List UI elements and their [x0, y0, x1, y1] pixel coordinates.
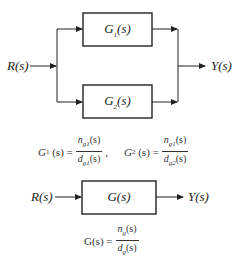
- formula-g2-sub: 2: [132, 146, 136, 158]
- block-g1-label: G1(s): [83, 22, 152, 42]
- block-g1-symbol: G: [104, 21, 113, 36]
- formula-g1-denominator: dg1(s): [76, 152, 103, 169]
- input-label: R(s): [7, 59, 29, 73]
- formula-g2-numerator: ng1(s): [162, 134, 189, 152]
- formula-g-lhs: G(s) =: [84, 235, 113, 247]
- formula-g2-arg: (s) =: [138, 146, 159, 158]
- formula-g2: G2 (s) = ng1(s) dg2(s): [124, 134, 191, 169]
- formula-g1-sub: 1: [46, 146, 50, 158]
- output-label: Y(s): [211, 59, 232, 73]
- formula-g1: G1 (s) = ng1(s) dg1(s) ,: [38, 134, 108, 169]
- block-g2-symbol: G: [104, 93, 113, 108]
- formula-g2-denominator: dg2(s): [162, 152, 189, 169]
- block-g2-label: G2(s): [83, 94, 152, 114]
- block-g1-arg: (s): [117, 21, 131, 36]
- eq-input-label: R(s): [31, 190, 53, 204]
- formula-separator: ,: [105, 146, 108, 158]
- formula-g1-symbol: G: [38, 146, 46, 158]
- formula-g1-arg: (s) =: [52, 146, 73, 158]
- formula-g-fraction: ng(s) dg(s): [116, 223, 139, 258]
- formula-g-denominator: dg(s): [116, 241, 139, 258]
- formula-g-numerator: ng(s): [116, 223, 139, 241]
- formula-g: G(s) = ng(s) dg(s): [84, 223, 142, 258]
- formula-g1-fraction: ng1(s) dg1(s): [76, 134, 103, 169]
- formula-g1-numerator: ng1(s): [76, 134, 103, 152]
- formula-g2-fraction: ng1(s) dg2(s): [162, 134, 189, 169]
- block-g-label: G(s): [82, 190, 156, 204]
- formula-g2-symbol: G: [124, 146, 132, 158]
- block-g2-arg: (s): [117, 93, 131, 108]
- eq-output-label: Y(s): [188, 190, 209, 204]
